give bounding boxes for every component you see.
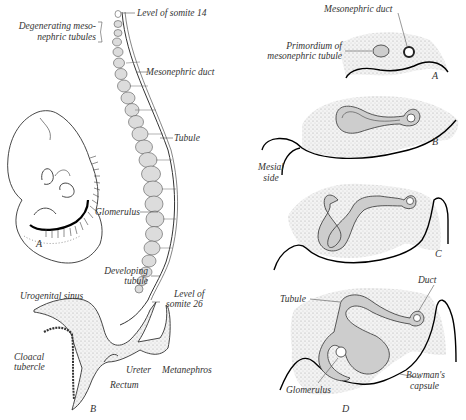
label-ureter: Ureter xyxy=(126,365,151,375)
label-primordium-2: mesonephric tubule xyxy=(250,51,342,61)
panel-label-d: D xyxy=(342,403,349,414)
urogenital-region xyxy=(34,298,170,410)
label-mesonephric-duct-right: Mesonephric duct xyxy=(324,4,392,14)
label-mesonephric-duct-left: Mesonephric duct xyxy=(146,67,214,77)
label-bowmans-capsule-1: Bowman's xyxy=(406,370,445,380)
label-urogenital-sinus: Urogenital sinus xyxy=(20,291,83,301)
mesonephros-illustration xyxy=(0,0,466,420)
label-cloacal-tubercle-1: Cloacal xyxy=(14,352,44,362)
section-b xyxy=(262,96,458,175)
tubule-lobes xyxy=(113,11,165,294)
label-mesial-side-1: Mesial xyxy=(256,162,286,172)
panel-label-b: B xyxy=(432,136,438,147)
label-rectum: Rectum xyxy=(110,380,139,390)
label-glomerulus-left: Glomerulus xyxy=(95,207,140,217)
label-primordium-1: Primordium of xyxy=(250,41,342,51)
label-duct: Duct xyxy=(418,275,436,285)
label-developing-tubule-2: tubule xyxy=(90,276,148,286)
label-bowmans-capsule-2: capsule xyxy=(410,381,439,391)
embryo-somites xyxy=(46,156,100,238)
embryo-drawing xyxy=(8,111,102,263)
label-tubule-left: Tubule xyxy=(174,133,200,143)
panel-label-c: C xyxy=(435,248,442,259)
label-degenerating-tubules-1: Degenerating meso- xyxy=(10,21,96,31)
label-developing-tubule-1: Developing xyxy=(90,266,148,276)
label-level-of-somite-14: Level of somite 14 xyxy=(137,8,206,18)
label-level-of-somite-26-2: somite 26 xyxy=(166,299,203,309)
leader-lines xyxy=(98,13,173,302)
panel-label-system-b: B xyxy=(90,403,96,414)
section-c xyxy=(274,184,448,270)
label-mesial-side-2: side xyxy=(256,173,286,183)
section-a xyxy=(338,13,448,78)
panel-label-embryo-a: A xyxy=(36,238,42,249)
label-glomerulus-right: Glomerulus xyxy=(286,385,331,395)
label-tubule-right: Tubule xyxy=(280,294,306,304)
panel-label-a: A xyxy=(432,70,438,81)
label-degenerating-tubules-2: nephric tubules xyxy=(10,32,96,42)
label-metanephros: Metanephros xyxy=(162,365,212,375)
label-cloacal-tubercle-2: tubercle xyxy=(14,362,45,372)
label-level-of-somite-26-1: Level of xyxy=(174,289,204,299)
